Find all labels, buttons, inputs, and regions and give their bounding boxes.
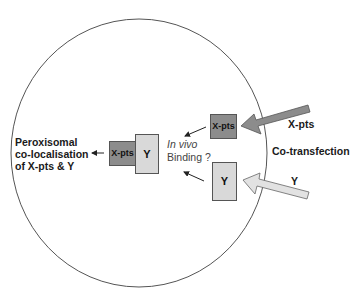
input-xpts-label: X-pts (212, 122, 235, 131)
external-xpts-label: X-pts (288, 119, 314, 130)
complex-xpts-box: X-pts (109, 141, 136, 166)
binding-question-label: Binding ? (167, 152, 211, 163)
complex-y-label: Y (143, 149, 150, 160)
input-xpts-box: X-pts (210, 114, 237, 139)
complex-y-box: Y (135, 134, 159, 174)
external-y-label: Y (291, 176, 298, 187)
complex-xpts-label: X-pts (111, 149, 134, 158)
in-vivo-label: In vivo (167, 139, 197, 150)
colocalisation-label-line1: Peroxisomal (15, 137, 77, 148)
input-y-label: Y (221, 176, 228, 187)
cotransfection-label: Co-transfection (272, 146, 350, 157)
colocalisation-label-line3: of X-pts & Y (15, 161, 74, 172)
colocalisation-label-line2: co-localisation (15, 149, 89, 160)
input-y-box: Y (212, 162, 237, 201)
